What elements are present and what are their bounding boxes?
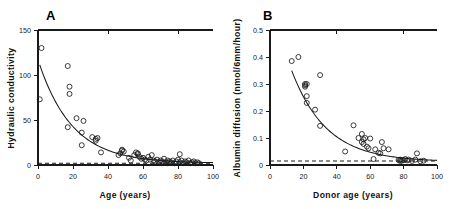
data-point	[371, 157, 376, 162]
panel-a-y-ticks	[34, 30, 38, 165]
panel-b-xtick-0: 0	[268, 172, 272, 181]
data-point	[67, 84, 72, 89]
panel-a-fit-curve	[40, 65, 213, 163]
data-point	[386, 147, 391, 152]
panel-b-ytick-01: 0.1	[253, 134, 263, 143]
data-point	[368, 136, 373, 141]
panel-b-x-axis-title: Donor age (years)	[313, 190, 393, 200]
panel-b-y-axis-title: Albumin diffusion (nmol/6mm/hour)	[232, 19, 242, 178]
panel-a-plot: A 0 50 100 150	[0, 0, 227, 209]
data-point	[343, 149, 348, 154]
panel-b-data-points	[289, 55, 426, 164]
panel-a-data-points	[37, 46, 201, 166]
panel-a: A 0 50 100 150	[0, 0, 227, 209]
figure-container: A 0 50 100 150	[0, 0, 454, 209]
data-point	[381, 146, 386, 151]
data-point	[39, 46, 44, 51]
data-point	[304, 94, 309, 99]
data-point	[67, 91, 72, 96]
data-point	[65, 64, 70, 69]
panel-b-ytick-04: 0.4	[253, 53, 263, 62]
panel-b-plot: B 0 0.1 0.2 0.3 0.4 0.5	[227, 0, 454, 209]
data-point	[177, 152, 182, 157]
panel-a-y-axis-title: Hydraulic conductivity	[6, 48, 16, 149]
data-point	[379, 140, 384, 145]
panel-b-ytick-0: 0	[259, 161, 263, 170]
data-point	[318, 123, 323, 128]
data-point	[313, 107, 318, 112]
panel-b-y-ticks	[266, 30, 270, 165]
data-point	[81, 118, 86, 123]
panel-a-ytick-100: 100	[19, 71, 31, 80]
panel-a-xtick-100: 100	[207, 172, 219, 181]
panel-b-ytick-05: 0.5	[253, 26, 263, 35]
panel-a-ytick-0: 0	[27, 161, 31, 170]
panel-b-ytick-03: 0.3	[253, 80, 263, 89]
panel-a-xtick-0: 0	[36, 172, 40, 181]
panel-b-letter: B	[263, 8, 272, 23]
data-point	[289, 59, 294, 64]
panel-a-x-ticks	[38, 30, 213, 169]
panel-a-x-axis-title: Age (years)	[99, 190, 150, 200]
data-point	[99, 150, 104, 155]
data-point	[318, 73, 323, 78]
panel-a-xtick-40: 40	[104, 172, 112, 181]
panel-b-ytick-02: 0.2	[253, 107, 263, 116]
panel-a-xtick-20: 20	[69, 172, 77, 181]
data-point	[65, 125, 70, 130]
panel-b-x-ticks	[270, 30, 437, 169]
panel-a-xtick-80: 80	[174, 172, 182, 181]
panel-b-xtick-40: 40	[333, 172, 341, 181]
panel-b-xtick-100: 100	[431, 172, 443, 181]
data-point	[351, 123, 356, 128]
data-point	[296, 55, 301, 60]
data-point	[74, 116, 79, 121]
panel-a-letter: A	[46, 8, 56, 23]
panel-b-xtick-60: 60	[366, 172, 374, 181]
panel-b-xtick-20: 20	[299, 172, 307, 181]
panel-a-ytick-50: 50	[23, 116, 31, 125]
data-point	[414, 151, 419, 156]
panel-a-ytick-150: 150	[19, 26, 31, 35]
panel-b-xtick-80: 80	[400, 172, 408, 181]
panel-a-xtick-60: 60	[139, 172, 147, 181]
data-point	[79, 143, 84, 148]
panel-b: B 0 0.1 0.2 0.3 0.4 0.5	[227, 0, 454, 209]
